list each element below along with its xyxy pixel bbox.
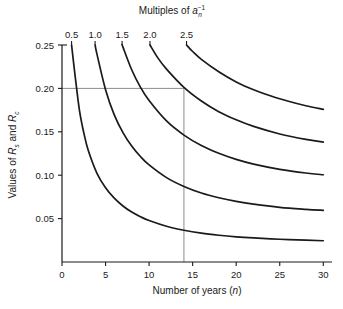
x-tick-label: 30: [318, 269, 329, 280]
y-tick-label: 0.25: [36, 40, 55, 51]
chart-svg: Multiples of a−1n 0.050.100.150.200.25 0…: [0, 0, 343, 309]
y-tick-label: 0.10: [36, 170, 55, 181]
x-tick-label: 15: [187, 269, 198, 280]
top-tick-label: 1.5: [115, 29, 128, 40]
x-tick-label: 20: [231, 269, 242, 280]
y-tick-label: 0.20: [36, 83, 55, 94]
top-tick-label: 1.0: [88, 29, 101, 40]
chart-figure: Multiples of a−1n 0.050.100.150.200.25 0…: [0, 0, 343, 309]
x-tick-label: 0: [59, 269, 64, 280]
x-tick-label: 5: [103, 269, 108, 280]
top-tick-label: 2.0: [143, 29, 156, 40]
x-tick-label: 25: [274, 269, 285, 280]
x-axis-title: Number of years (n): [153, 285, 242, 296]
y-tick-label: 0.15: [36, 126, 55, 137]
y-tick-label: 0.05: [36, 213, 55, 224]
top-tick-label: 2.5: [180, 29, 193, 40]
top-axis-title: Multiples of a−1n: [139, 4, 206, 18]
top-tick-label: 0.5: [65, 29, 78, 40]
x-tick-label: 10: [144, 269, 155, 280]
